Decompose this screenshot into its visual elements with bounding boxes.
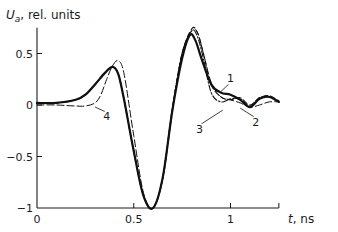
leader-line-1 — [221, 84, 229, 91]
series-line-1 — [37, 34, 279, 209]
line-chart: 00.510.50−0.5−1 1234 Ua, rel. units t, n… — [0, 0, 338, 232]
y-tick-label: −0.5 — [6, 151, 33, 164]
curve-label-2: 2 — [252, 116, 259, 129]
series-group — [37, 27, 279, 208]
y-axis-title: Ua, rel. units — [6, 8, 80, 24]
x-tick-label: 1 — [227, 213, 234, 226]
y-axis-title-var: U — [6, 8, 15, 22]
series-line-4 — [37, 29, 279, 209]
x-axis-title-unit: , ns — [293, 212, 315, 226]
curve-label-4: 4 — [103, 110, 110, 123]
y-tick-label: −1 — [17, 202, 33, 215]
series-line-3 — [37, 30, 279, 209]
leader-line-3 — [202, 110, 223, 124]
x-tick-label: 0.5 — [125, 213, 143, 226]
series-line-2 — [37, 27, 279, 208]
x-axis-title: t, ns — [288, 212, 314, 226]
curve-label-1: 1 — [227, 72, 234, 85]
y-tick-label: 0 — [26, 99, 33, 112]
x-tick-label: 0 — [34, 213, 41, 226]
y-axis-title-unit: , rel. units — [20, 8, 80, 22]
y-tick-label: 0.5 — [16, 48, 34, 61]
curve-label-3: 3 — [196, 123, 203, 136]
